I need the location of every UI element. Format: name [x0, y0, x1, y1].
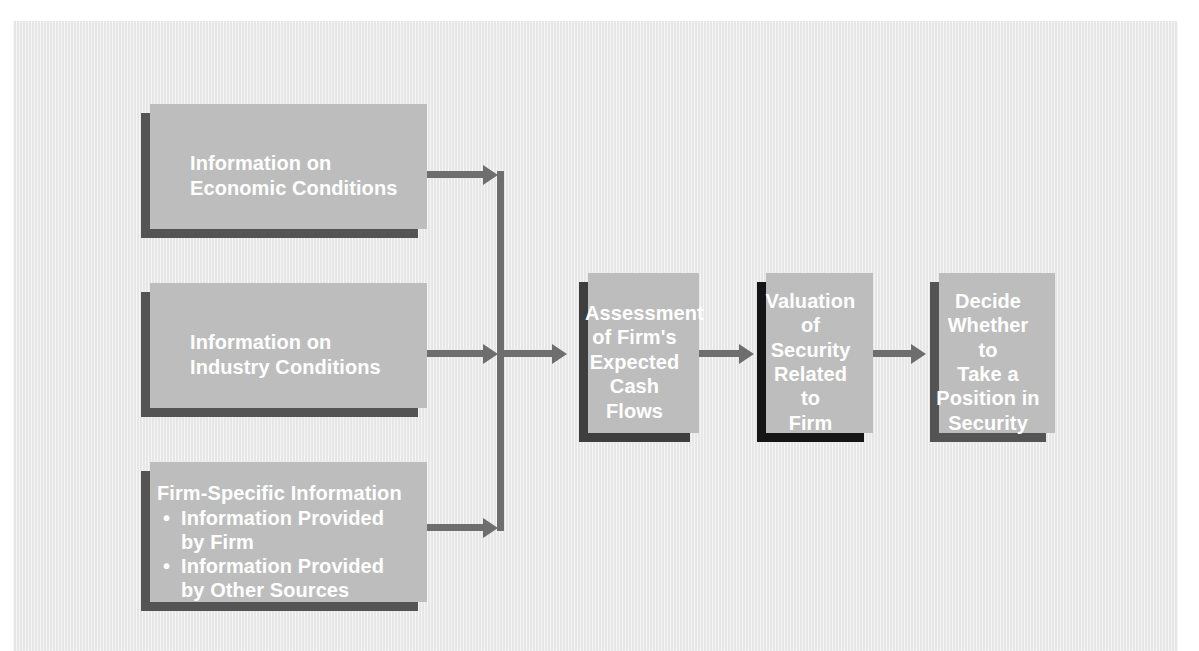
node-line-4: Cash [585, 374, 684, 398]
node-text: Assessment of Firm's Expected Cash Flows [579, 301, 690, 423]
node-valuation-of-security: Valuation of Security Related to Firm [757, 282, 864, 442]
node-decide-whether-to-take-position: Decide Whether to Take a Position in Sec… [930, 282, 1046, 442]
arrow-economic-to-bus-head [483, 165, 498, 185]
node-line-5: Firm [763, 411, 858, 435]
node-line-5: Security [936, 411, 1040, 435]
node-text: Decide Whether to Take a Position in Sec… [930, 289, 1046, 435]
arrow-industry-to-bus-line [418, 350, 488, 357]
arrow-industry-to-bus-head [483, 344, 498, 364]
figure-panel: Information on Economic Conditions Infor… [13, 21, 1178, 651]
node-text: Valuation of Security Related to Firm [757, 289, 864, 435]
node-text: Information on Industry Conditions [141, 330, 418, 379]
node-heading: Firm-Specific Information [157, 481, 410, 505]
node-line-2: of Firm's [585, 325, 684, 349]
node-line-2: Whether to [936, 313, 1040, 362]
node-firm-specific-information: Firm-Specific Information Information Pr… [141, 471, 418, 611]
arrow-firm-to-bus-line [418, 524, 488, 531]
arrow-firm-to-bus-head [483, 518, 498, 538]
node-line-5: Flows [585, 399, 684, 423]
node-bullet-item: Information Provided by Firm [181, 506, 410, 554]
node-line-2: of [763, 313, 858, 337]
node-assessment-of-expected-cash-flows: Assessment of Firm's Expected Cash Flows [579, 282, 690, 442]
node-line-2: Industry Conditions [190, 355, 406, 379]
node-line-2: Economic Conditions [190, 176, 406, 200]
arrow-bus-to-assessment-line [497, 350, 557, 357]
node-line-3: Take a [936, 362, 1040, 386]
node-bullet-list: Information Provided by Firm Information… [157, 506, 410, 602]
arrow-bus-to-assessment-head [552, 344, 567, 364]
arrow-valuation-to-decision-head [911, 344, 926, 364]
node-line-1: Information on [190, 151, 406, 175]
node-line-1: Information on [190, 330, 406, 354]
node-line-1: Decide [936, 289, 1040, 313]
node-information-industry-conditions: Information on Industry Conditions [141, 292, 418, 417]
node-line-4: Related to [763, 362, 858, 411]
node-bullet-item: Information Provided by Other Sources [181, 554, 410, 602]
node-line-4: Position in [936, 386, 1040, 410]
node-information-economic-conditions: Information on Economic Conditions [141, 113, 418, 238]
node-text: Information on Economic Conditions [141, 151, 418, 200]
node-line-1: Valuation [763, 289, 858, 313]
node-line-3: Security [763, 338, 858, 362]
node-line-1: Assessment [585, 301, 684, 325]
node-line-3: Expected [585, 350, 684, 374]
arrow-assessment-to-valuation-head [739, 344, 754, 364]
arrow-economic-to-bus-line [418, 171, 488, 178]
node-text: Firm-Specific Information Information Pr… [141, 481, 418, 602]
